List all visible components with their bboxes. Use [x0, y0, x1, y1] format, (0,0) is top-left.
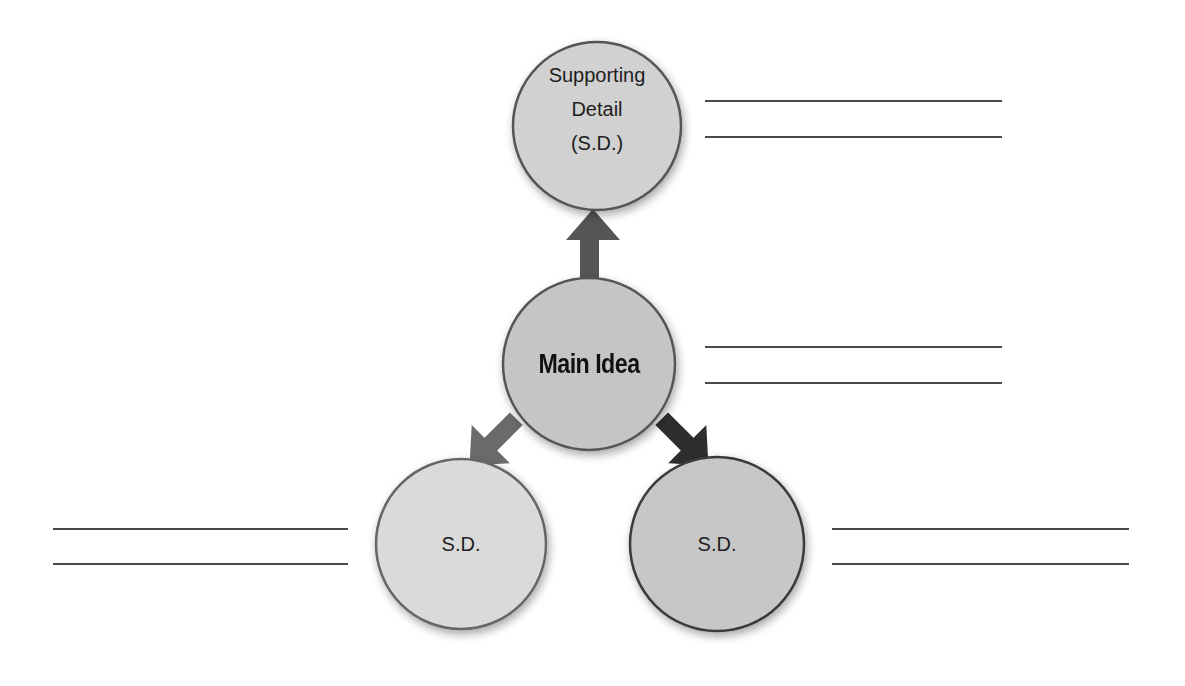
node-main-circle	[503, 278, 675, 450]
answer-line-left-1[interactable]	[53, 528, 348, 530]
answer-line-right-1[interactable]	[832, 528, 1129, 530]
answer-line-top-2[interactable]	[705, 136, 1002, 138]
arrow-to-top	[566, 209, 620, 282]
answer-line-main-2[interactable]	[705, 382, 1002, 384]
main-idea-diagram: Supporting Detail (S.D.) Main Idea S.D. …	[0, 0, 1185, 686]
answer-line-right-2[interactable]	[832, 563, 1129, 565]
node-left-circle	[376, 459, 546, 629]
answer-line-main-1[interactable]	[705, 346, 1002, 348]
node-right-circle	[630, 457, 804, 631]
answer-line-left-2[interactable]	[53, 563, 348, 565]
answer-line-top-1[interactable]	[705, 100, 1002, 102]
node-top-circle	[513, 42, 681, 210]
